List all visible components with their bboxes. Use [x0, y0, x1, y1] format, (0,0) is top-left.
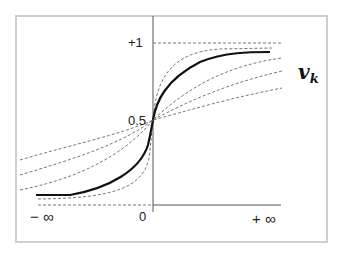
- label-neg-infinity: − ∞: [30, 208, 54, 225]
- sigmoid-diagram: +1 0.5 0 − ∞ + ∞ vk: [0, 0, 341, 257]
- shallow-sigmoid-1: [20, 58, 282, 190]
- shallow-sigmoid-3: [20, 88, 282, 160]
- shallow-sigmoid-2: [20, 71, 282, 175]
- label-origin: 0: [139, 209, 146, 224]
- label-half: 0.5: [128, 113, 146, 128]
- output-label-v: vk: [298, 60, 319, 86]
- label-plus-one: +1: [128, 35, 143, 50]
- label-pos-infinity: + ∞: [252, 210, 276, 227]
- steep-sigmoid-curve: [38, 48, 272, 199]
